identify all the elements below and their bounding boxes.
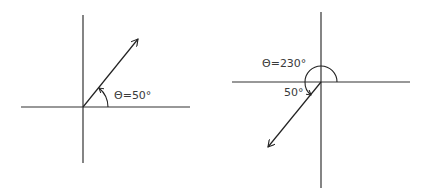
angle-arc [99,88,108,107]
vector-angle-diagrams: Θ=50° Θ=230° 50° [0,0,426,195]
reference-angle-label: 50° [284,86,304,99]
diagram-right: Θ=230° 50° [232,12,410,188]
angle-label: Θ=50° [114,89,151,102]
diagram-left: Θ=50° [21,15,190,163]
angle-label: Θ=230° [262,57,306,70]
